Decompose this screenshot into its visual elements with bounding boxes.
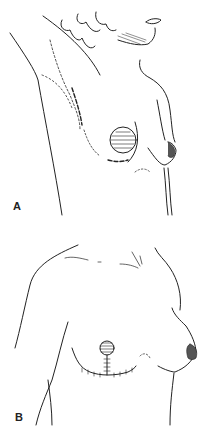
arm-inner-line (36, 322, 68, 425)
lips (146, 19, 161, 24)
areola-hatching (100, 343, 114, 352)
panel-b-drawing (0, 220, 211, 440)
clavicle-hint (65, 257, 88, 260)
right-nipple (168, 142, 175, 158)
torso-side-line (157, 100, 165, 140)
inframammary-hatch (84, 130, 100, 156)
torso-lower-line (164, 168, 168, 215)
torso-right-line (170, 373, 174, 425)
axillary-dashed-line (50, 40, 80, 130)
inframammary-dashed-incision (108, 160, 128, 162)
panel-a: A (0, 0, 211, 220)
left-shoulder-line (15, 245, 78, 348)
axillary-dashed-line-2 (42, 75, 72, 108)
panel-b-label: B (15, 411, 23, 423)
hair-curls-3 (96, 12, 116, 31)
arm-lower-line (48, 380, 52, 425)
clavicle-hint-right (120, 264, 138, 268)
panel-b: B (0, 220, 211, 440)
umbilical-hint (135, 169, 150, 172)
areola-hatching (111, 132, 135, 148)
lateral-dashed-incision (72, 88, 82, 125)
hair-curls-2 (77, 14, 100, 32)
neck-shading (118, 33, 146, 44)
right-shoulder-line (155, 248, 181, 310)
torso-lower-line-2 (168, 168, 172, 215)
panel-a-label: A (13, 200, 21, 212)
arm-outer-line (10, 33, 62, 215)
chin-line (118, 28, 155, 45)
contour-dash (140, 354, 150, 358)
neck-base-lines (132, 252, 142, 266)
panel-a-drawing (0, 0, 211, 220)
